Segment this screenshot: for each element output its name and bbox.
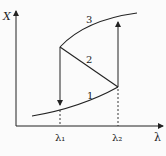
hysteresis-diagram: X λ λ₁ λ₂ 1 2 3 [0, 0, 166, 156]
x-axis-label: λ [154, 131, 161, 144]
branch-3-label: 3 [86, 14, 92, 25]
y-axis-label: X [2, 10, 12, 23]
branch-3-curve [60, 13, 137, 47]
branch-1-label: 1 [87, 90, 93, 101]
lambda2-tick-label: λ₂ [112, 132, 122, 143]
branch-1-curve [32, 87, 118, 116]
branch-2-label: 2 [86, 54, 92, 65]
branch-2-line [60, 47, 118, 87]
diagram-canvas: X λ λ₁ λ₂ 1 2 3 [0, 0, 166, 156]
lambda1-tick-label: λ₁ [55, 132, 65, 143]
